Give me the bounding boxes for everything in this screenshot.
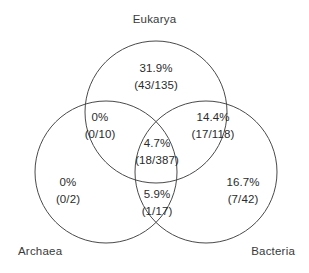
region-archaea-bacteria-fraction: (1/17) — [142, 203, 173, 220]
region-eukarya-archaea-percent: 0% — [85, 109, 116, 126]
region-eukarya-bacteria-percent: 14.4% — [192, 109, 235, 126]
region-eukarya-archaea-fraction: (0/10) — [85, 126, 116, 143]
region-eukarya-only-fraction: (43/135) — [134, 77, 178, 94]
region-eukarya-only: 31.9% (43/135) — [134, 60, 178, 93]
set-label-archaea: Archaea — [18, 245, 62, 257]
region-eukarya-archaea: 0% (0/10) — [85, 109, 116, 142]
region-eukarya-bacteria-fraction: (17/118) — [192, 126, 235, 143]
set-label-eukarya: Eukarya — [133, 13, 177, 25]
region-eukarya-bacteria: 14.4% (17/118) — [192, 109, 235, 142]
venn-diagram-figure: Eukarya Archaea Bacteria 31.9% (43/135) … — [0, 0, 309, 273]
region-all-three-fraction: (18/387) — [135, 152, 179, 169]
set-label-bacteria: Bacteria — [251, 245, 295, 257]
region-archaea-only-percent: 0% — [56, 174, 80, 191]
region-all-three: 4.7% (18/387) — [135, 135, 179, 168]
region-archaea-only-fraction: (0/2) — [56, 191, 80, 208]
region-bacteria-only-fraction: (7/42) — [226, 191, 259, 208]
region-archaea-only: 0% (0/2) — [56, 174, 80, 207]
region-archaea-bacteria: 5.9% (1/17) — [142, 186, 173, 219]
region-archaea-bacteria-percent: 5.9% — [142, 186, 173, 203]
region-eukarya-only-percent: 31.9% — [134, 60, 178, 77]
region-bacteria-only-percent: 16.7% — [226, 174, 259, 191]
region-bacteria-only: 16.7% (7/42) — [226, 174, 259, 207]
region-all-three-percent: 4.7% — [135, 135, 179, 152]
